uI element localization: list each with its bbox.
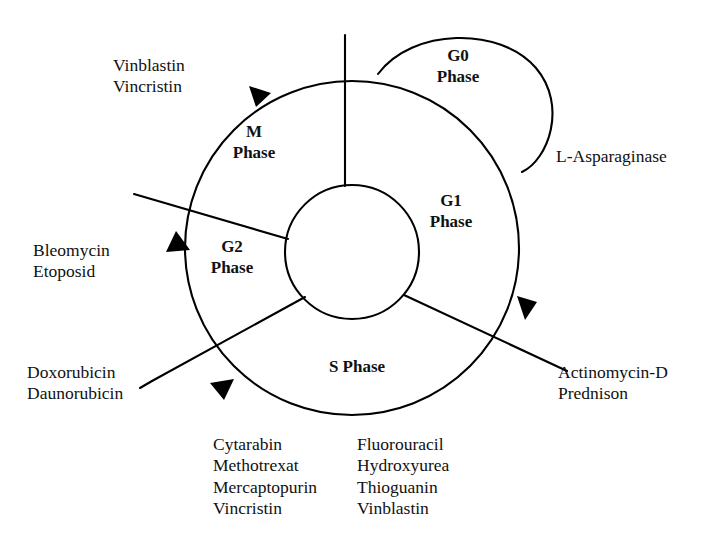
drug-s1-line-3: Mercaptopurin <box>213 477 317 498</box>
drug-s2-line-2: Hydroxyurea <box>357 455 449 476</box>
drug-label-g0-phase: L-Asparaginase <box>556 146 667 167</box>
drug-label-g2-phase: Bleomycin Etoposid <box>33 240 110 283</box>
drug-label-m-phase: Vinblastin Vincristin <box>113 55 185 98</box>
drug-s2-line-1: Fluorouracil <box>357 434 449 455</box>
divider-m-g2 <box>134 194 288 239</box>
drug-s2-line-4: Vinblastin <box>357 498 449 519</box>
phase-label-g1-line2: Phase <box>408 212 494 233</box>
drug-label-s-phase-column-1: Cytarabin Methotrexat Mercaptopurin Vinc… <box>213 434 317 519</box>
drug-g0-line-1: L-Asparaginase <box>556 146 667 167</box>
drug-label-g2s-boundary: Doxorubicin Daunorubicin <box>27 362 123 405</box>
drug-g2-line-2: Etoposid <box>33 261 110 282</box>
phase-label-g0-line2: Phase <box>413 67 503 88</box>
drug-g2s-line-1: Doxorubicin <box>27 362 123 383</box>
drug-g2s-line-2: Daunorubicin <box>27 383 123 404</box>
phase-label-g1-line1: G1 <box>408 191 494 212</box>
phase-label-m-line2: Phase <box>215 143 293 164</box>
drug-s2-line-3: Thioguanin <box>357 477 449 498</box>
drug-s1-line-1: Cytarabin <box>213 434 317 455</box>
cell-cycle-diagram: G0 Phase M Phase G1 Phase G2 Phase S Pha… <box>0 0 710 554</box>
drug-g1-line-2: Prednison <box>558 383 668 404</box>
phase-label-g2: G2 Phase <box>190 237 274 278</box>
arrowhead-g1-phase <box>517 296 537 320</box>
phase-label-g1: G1 Phase <box>408 191 494 232</box>
arrowhead-s-phase <box>210 379 234 400</box>
drug-s1-line-4: Vincristin <box>213 498 317 519</box>
inner-hub-circle <box>285 185 419 319</box>
drug-label-g1-phase: Actinomycin-D Prednison <box>558 362 668 405</box>
divider-g2-s <box>152 297 305 381</box>
drug-label-s-phase-column-2: Fluorouracil Hydroxyurea Thioguanin Vinb… <box>357 434 449 519</box>
phase-label-g0: G0 Phase <box>413 46 503 87</box>
phase-label-g0-line1: G0 <box>413 46 503 67</box>
phase-label-m: M Phase <box>215 122 293 163</box>
drug-s1-line-2: Methotrexat <box>213 455 317 476</box>
phase-label-g2-line1: G2 <box>190 237 274 258</box>
phase-label-s: S Phase <box>302 357 412 378</box>
divider-s-g1 <box>404 295 567 371</box>
doxorubicin-pointer <box>140 381 152 388</box>
drug-m-line-1: Vinblastin <box>113 55 185 76</box>
drug-g1-line-1: Actinomycin-D <box>558 362 668 383</box>
drug-g2-line-1: Bleomycin <box>33 240 110 261</box>
phase-label-g2-line2: Phase <box>190 258 274 279</box>
phase-label-m-line1: M <box>215 122 293 143</box>
drug-m-line-2: Vincristin <box>113 76 185 97</box>
phase-label-s-line1: S Phase <box>302 357 412 378</box>
